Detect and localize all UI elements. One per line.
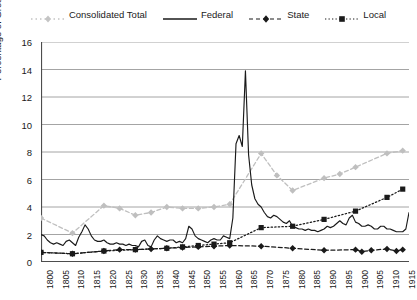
legend-label-consolidated-total: Consolidated Total (69, 10, 147, 20)
series-marker (393, 248, 399, 254)
series-marker (132, 212, 138, 218)
x-axis-tick-label: 1910 (391, 270, 401, 289)
x-axis-tick-label: 1855 (218, 270, 228, 289)
series-marker (368, 247, 374, 253)
series-marker (290, 224, 295, 229)
series-marker (164, 204, 170, 210)
series-marker (195, 205, 201, 211)
legend-item-federal: Federal (163, 10, 233, 20)
y-axis-tick-label: 16 (8, 37, 32, 48)
legend-swatch-local (325, 10, 359, 20)
legend-label-state: State (287, 10, 309, 20)
series-state (41, 242, 406, 257)
series-marker (384, 150, 390, 156)
series-marker (352, 164, 358, 170)
series-marker (211, 242, 216, 247)
series-marker (258, 150, 264, 156)
series-line (41, 189, 403, 254)
chart-legend: Consolidated Total Federal State (0, 4, 417, 26)
y-axis-tick-label: 14 (8, 64, 32, 75)
series-marker (133, 247, 138, 252)
series-marker (196, 243, 201, 248)
series-marker (227, 201, 233, 207)
x-axis-tick-label: 1820 (108, 270, 118, 289)
legend-item-local: Local (325, 10, 386, 20)
x-axis-tick-label: 1805 (61, 270, 71, 289)
series-marker (116, 246, 122, 252)
series-marker (180, 244, 185, 249)
x-axis-tick-label: 1880 (297, 270, 307, 289)
legend-swatch-state (249, 10, 283, 20)
x-axis-tick-label: 1905 (375, 270, 385, 289)
legend-label-local: Local (363, 10, 386, 20)
series-marker (116, 205, 122, 211)
series-marker (41, 250, 44, 255)
series-marker (359, 248, 365, 254)
series-marker (321, 175, 327, 181)
x-axis-tick-label: 1840 (171, 270, 181, 289)
x-axis-tick-label: 1810 (76, 270, 86, 289)
x-axis-tick-label: 1870 (265, 270, 275, 289)
x-axis-tick-label: 1830 (139, 270, 149, 289)
series-marker (69, 230, 75, 236)
y-axis-tick-label: 2 (8, 229, 32, 240)
series-marker (353, 209, 358, 214)
series-marker (400, 187, 405, 192)
x-axis-tick-label: 1915 (407, 270, 417, 289)
series-marker (179, 205, 185, 211)
y-axis-title: Percentage of Gross Domestic Product (0, 0, 3, 98)
y-axis-tick-label: 0 (8, 257, 32, 268)
y-axis-tick-label: 8 (8, 147, 32, 158)
plot-area (41, 42, 409, 262)
series-marker (211, 204, 217, 210)
series-marker (227, 240, 232, 245)
y-axis-tick-label: 4 (8, 202, 32, 213)
series-marker (274, 172, 280, 178)
x-axis-tick-label: 1885 (312, 270, 322, 289)
legend-item-consolidated-total: Consolidated Total (31, 10, 147, 20)
series-marker (321, 217, 326, 222)
legend-swatch-federal (163, 10, 197, 20)
series-marker (352, 246, 358, 252)
series-marker (384, 246, 390, 252)
series-marker (400, 246, 406, 252)
x-axis-tick-label: 1815 (92, 270, 102, 289)
series-marker (148, 209, 154, 215)
series-marker (321, 247, 327, 253)
series-marker (70, 251, 75, 256)
legend-label-federal: Federal (201, 10, 233, 20)
series-marker (384, 195, 389, 200)
x-axis-tick-label: 1825 (124, 270, 134, 289)
series-marker (289, 245, 295, 251)
legend-item-state: State (249, 10, 309, 20)
y-axis-tick-label: 6 (8, 174, 32, 185)
y-axis-tick-label: 10 (8, 119, 32, 130)
series-marker (164, 246, 169, 251)
chart-container: Consolidated Total Federal State (0, 0, 417, 300)
series-marker (337, 171, 343, 177)
series-marker (101, 248, 106, 253)
x-axis-tick-label: 1865 (249, 270, 259, 289)
series-marker (400, 147, 406, 153)
x-axis-tick-label: 1890 (328, 270, 338, 289)
x-axis-tick-label: 1800 (45, 270, 55, 289)
chart-plot-svg (41, 42, 409, 262)
series-marker (41, 215, 44, 221)
y-axis-tick-label: 12 (8, 92, 32, 103)
x-axis-tick-label: 1875 (281, 270, 291, 289)
legend-swatch-consolidated-total (31, 10, 65, 20)
x-axis-tick-label: 1845 (187, 270, 197, 289)
x-axis-tick-label: 1835 (155, 270, 165, 289)
series-marker (259, 225, 264, 230)
x-axis-tick-label: 1860 (234, 270, 244, 289)
x-axis-tick-label: 1895 (344, 270, 354, 289)
series-marker (258, 243, 264, 249)
x-axis-tick-label: 1900 (360, 270, 370, 289)
series-line (41, 246, 403, 254)
x-axis-tick-label: 1850 (202, 270, 212, 289)
series-consolidated-total (41, 147, 406, 236)
